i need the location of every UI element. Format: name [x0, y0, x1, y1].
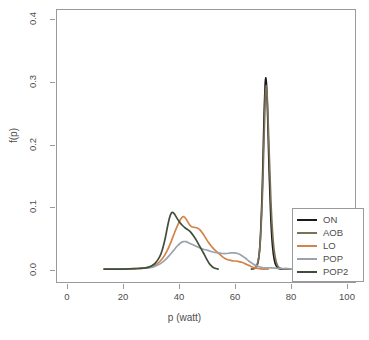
density-curve-on — [251, 78, 290, 269]
x-axis-title: p (watt) — [0, 312, 369, 323]
x-tick-mark — [67, 284, 68, 289]
x-tick-label: 40 — [164, 291, 194, 302]
x-tick-mark — [291, 284, 292, 289]
legend-item-pop[interactable]: POP — [293, 252, 363, 265]
x-tick-label: 100 — [332, 291, 362, 302]
legend-item-on[interactable]: ON — [293, 213, 363, 226]
legend-label: AOB — [323, 227, 343, 238]
legend-swatch-pop — [297, 258, 317, 260]
y-tick-label: 0.3 — [27, 68, 38, 94]
legend-swatch-pop2 — [297, 271, 317, 273]
y-tick-mark — [50, 207, 55, 208]
legend-label: LO — [323, 240, 336, 251]
x-tick-mark — [235, 284, 236, 289]
y-tick-mark — [50, 19, 55, 20]
legend-item-aob[interactable]: AOB — [293, 226, 363, 239]
y-tick-mark — [50, 145, 55, 146]
legend-label: ON — [323, 214, 337, 225]
legend-swatch-on — [297, 219, 317, 221]
y-axis-title: f(p) — [8, 128, 19, 143]
y-tick-label: 0.4 — [27, 6, 38, 32]
x-tick-label: 80 — [276, 291, 306, 302]
density-curve-lo — [104, 217, 268, 269]
density-curve-aob — [252, 85, 290, 269]
legend-swatch-lo — [297, 245, 317, 247]
y-tick-label: 0.2 — [27, 131, 38, 157]
x-tick-mark — [347, 284, 348, 289]
y-tick-mark — [50, 82, 55, 83]
x-tick-mark — [123, 284, 124, 289]
legend-item-lo[interactable]: LO — [293, 239, 363, 252]
y-tick-label: 0.0 — [27, 257, 38, 283]
legend-label: POP — [323, 253, 343, 264]
y-tick-label: 0.1 — [27, 194, 38, 220]
x-tick-label: 0 — [52, 291, 82, 302]
x-tick-mark — [179, 284, 180, 289]
y-tick-mark — [50, 270, 55, 271]
x-tick-label: 60 — [220, 291, 250, 302]
legend[interactable]: ONAOBLOPOPPOP2 — [292, 208, 364, 282]
legend-item-pop2[interactable]: POP2 — [293, 265, 363, 278]
legend-swatch-aob — [297, 232, 317, 234]
legend-label: POP2 — [323, 266, 348, 277]
x-tick-label: 20 — [108, 291, 138, 302]
density-plot-figure: f(p) 0.00.10.20.30.4 020406080100 p (wat… — [0, 0, 369, 340]
